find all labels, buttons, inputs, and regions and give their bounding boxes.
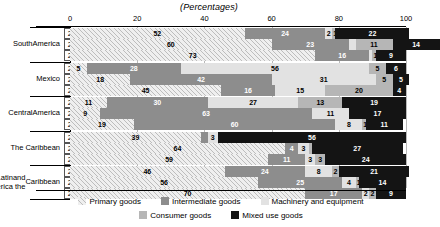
bar-segment-value: 3 — [305, 154, 315, 165]
bar-segment-value: 4 — [393, 85, 406, 96]
bar-segment-value: 5 — [393, 74, 410, 85]
stacked-bar: 39356 — [70, 132, 406, 143]
bar-segment-value: 39 — [70, 132, 201, 143]
bar-segment-value: 24 — [245, 28, 326, 39]
bar-segment-value: 3 — [315, 154, 325, 165]
legend-label: Machinery and equipment — [272, 197, 364, 206]
legend-swatch-consumer-icon — [139, 211, 147, 219]
bar-segment-value: 8 — [335, 119, 362, 130]
bar-segment-value: 46 — [70, 166, 225, 177]
bar-segment-value: 21 — [339, 166, 410, 177]
stacked-bar: 52242122 — [70, 28, 406, 39]
bar-segment-value: 11 — [366, 119, 403, 130]
legend-item-consumer[interactable]: Consumer goods — [139, 211, 211, 220]
bar-segment-value: 59 — [70, 154, 268, 165]
bar-segment-value: 8 — [305, 166, 332, 177]
table-row: 2013731619 — [0, 50, 418, 61]
bar-segment-value: 11 — [70, 97, 107, 108]
legend-divider — [36, 190, 406, 191]
legend-item-primary[interactable]: Primary goods — [78, 197, 141, 206]
bar-segment-value: 3 — [298, 143, 308, 154]
bar-segment-intermediate — [201, 132, 208, 143]
legend-label: Mixed use goods — [242, 211, 302, 220]
bar-segment-value: 19 — [70, 119, 134, 130]
stacked-bar: 731619 — [70, 50, 406, 61]
table-row: 20005285656 — [0, 63, 418, 74]
bar-segment-value: 5 — [376, 74, 393, 85]
bar-segment-value: 2 — [332, 166, 339, 177]
legend-item-intermediate[interactable]: Intermediate goods — [161, 197, 241, 206]
x-tick-0: 0 — [68, 14, 72, 23]
bar-segment-value: 23 — [272, 39, 349, 50]
legend-row-top: Primary goodsIntermediate goodsMachinery… — [36, 194, 406, 208]
table-row: 200518423155 — [0, 74, 418, 85]
x-tick-80: 80 — [335, 14, 343, 23]
bar-segment-value: 11 — [356, 39, 393, 50]
table-row: 200039356 — [0, 132, 418, 143]
bar-segment-value: 73 — [70, 50, 315, 61]
bar-segment-value: 64 — [70, 143, 285, 154]
bar-segment-value: 14 — [359, 177, 406, 188]
bar-segment-value: 19 — [342, 97, 406, 108]
bar-segment-value: 56 — [218, 132, 406, 143]
bar-segment-value: 24 — [325, 154, 406, 165]
table-row: 20059631117 — [0, 108, 418, 119]
bar-segment-value: 28 — [87, 63, 181, 74]
chart-title: (Percentages) — [0, 2, 418, 12]
stacked-bar: 19608111 — [70, 119, 406, 130]
table-row: 200046248221 — [0, 166, 418, 177]
legend-label: Primary goods — [89, 197, 141, 206]
bar-segment-value: 5 — [369, 63, 386, 74]
bar-segment-value: 13 — [298, 97, 342, 108]
stacked-bar: 1130271319 — [70, 97, 406, 108]
bar-segment-value: 63 — [100, 108, 312, 119]
bar-segment-value: 4 — [285, 143, 298, 154]
bar-segment-value: 4 — [342, 177, 355, 188]
bar-segment-value: 22 — [335, 28, 409, 39]
legend-row-bottom: Consumer goodsMixed use goods — [36, 208, 406, 222]
table-row: 201359113324 — [0, 154, 418, 165]
stacked-bar: 59113324 — [70, 154, 406, 165]
bar-segment-value: 16 — [315, 50, 369, 61]
table-row: 200052242122 — [0, 28, 418, 39]
stacked-bar: 56254114 — [70, 177, 406, 188]
bar-segment-value: 56 — [70, 177, 258, 188]
bar-segment-value: 60 — [134, 119, 336, 130]
x-axis-tick-labels: 020406080100 — [0, 14, 418, 26]
legend-swatch-intermediate-icon — [161, 197, 169, 205]
bar-segment-value: 20 — [325, 85, 392, 96]
bar-segment-value: 45 — [70, 85, 221, 96]
table-row: 200560231114 — [0, 39, 418, 50]
bar-segment-value: 27 — [208, 97, 299, 108]
bar-segment-value: 24 — [225, 166, 306, 177]
bar-segment-value: 16 — [221, 85, 275, 96]
stacked-bar: 5285656 — [70, 63, 406, 74]
bar-segment-value: 15 — [275, 85, 325, 96]
stacked-bar: 9631117 — [70, 108, 406, 119]
x-tick-20: 20 — [133, 14, 141, 23]
legend-swatch-machinery-icon — [261, 197, 269, 205]
legend-item-machinery[interactable]: Machinery and equipment — [261, 197, 364, 206]
bar-segment-value: 2 — [325, 28, 332, 39]
stacked-bar: 451615204 — [70, 85, 406, 96]
bar-segment-value: 11 — [268, 154, 305, 165]
bar-segment-value: 27 — [312, 143, 403, 154]
legend-item-mixed[interactable]: Mixed use goods — [231, 211, 302, 220]
bar-segment-machinery — [349, 39, 356, 50]
bar-segment-value: 56 — [181, 63, 369, 74]
legend-label: Intermediate goods — [172, 197, 241, 206]
legend-label: Consumer goods — [150, 211, 211, 220]
bar-segment-value: 25 — [258, 177, 342, 188]
legend-swatch-primary-icon — [78, 197, 86, 205]
bar-segment-value: 17 — [349, 108, 406, 119]
stacked-bar: 46248221 — [70, 166, 406, 177]
bar-segment-value: 6 — [386, 63, 406, 74]
bar-segment-value: 31 — [272, 74, 376, 85]
table-row: 20001130271319 — [0, 97, 418, 108]
x-tick-40: 40 — [200, 14, 208, 23]
stacked-bar: 644327 — [70, 143, 406, 154]
stacked-bar: 18423155 — [70, 74, 406, 85]
x-axis-line — [36, 26, 406, 27]
table-row: 2013451615204 — [0, 85, 418, 96]
